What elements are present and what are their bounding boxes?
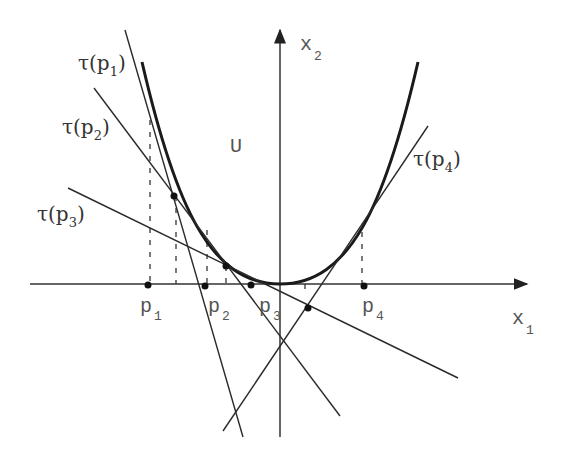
tangent-label-p3: τ(p3) [37, 202, 85, 230]
tangent-label-p1: τ(p1) [78, 51, 126, 79]
tangent-lines [68, 30, 458, 437]
tangent-label-p2: τ(p2) [62, 115, 110, 143]
tangent-line-p2 [94, 88, 340, 416]
region-label-u: U [230, 135, 242, 158]
point-label-p2: p2 [208, 295, 230, 324]
point-label-p1: p1 [140, 295, 162, 324]
x2-axis-label: x2 [300, 33, 322, 64]
point-label-p4: p4 [362, 295, 384, 324]
tangent-line-p1 [125, 30, 243, 437]
tangent-line-p3 [68, 188, 458, 378]
tangent-label-p4: τ(p4) [413, 147, 461, 175]
x1-axis-label: x1 [512, 307, 534, 338]
parabola-tangent-diagram: U x2 x1 p1 p2 p3 p4 τ(p1) τ(p2) τ(p3) τ(… [0, 0, 564, 461]
point-label-p3: p3 [259, 295, 281, 324]
